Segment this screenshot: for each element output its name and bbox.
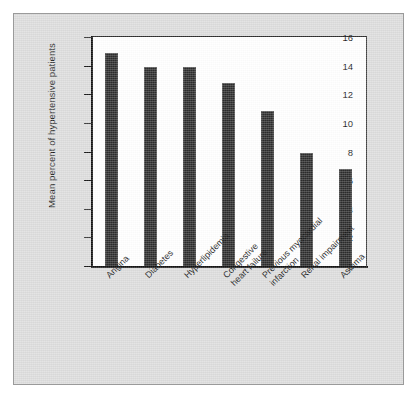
y-axis-title: Mean percent of hypertensive patients (46, 21, 57, 231)
y-axis-line (91, 36, 93, 267)
plot-area: 0246810121416 AnginaDiabetesHyperlipidem… (93, 37, 366, 266)
y-axis-tick-label: 8 (329, 146, 353, 157)
plot-right-border (366, 36, 367, 267)
bar (105, 53, 118, 266)
bar (261, 111, 274, 266)
figure-panel: Mean percent of hypertensive patients 02… (13, 13, 404, 385)
y-axis-tick-label: 14 (329, 60, 353, 71)
plot-top-border (93, 36, 366, 37)
y-axis-tick-label: 12 (329, 89, 353, 100)
y-axis-tick (84, 266, 91, 267)
y-axis-tick (84, 66, 91, 67)
y-axis-tick (84, 123, 91, 124)
y-axis-tick (84, 180, 91, 181)
y-axis-tick (84, 37, 91, 38)
y-axis-tick (84, 237, 91, 238)
y-axis-tick (84, 94, 91, 95)
bar (339, 169, 352, 266)
y-axis-tick-label: 16 (329, 32, 353, 43)
y-axis-tick (84, 152, 91, 153)
bar (144, 67, 157, 266)
y-axis-tick-label: 10 (329, 117, 353, 128)
bar (183, 67, 196, 266)
y-axis-tick (84, 209, 91, 210)
